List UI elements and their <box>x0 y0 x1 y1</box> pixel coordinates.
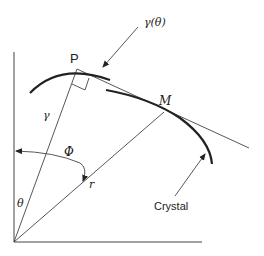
gamma-theta-pointer-arrow <box>103 27 138 67</box>
phi-angle-arc-lower <box>80 163 85 181</box>
label-gamma: γ <box>43 109 50 122</box>
crystal-geometry-diagram: P M γ γ(θ) Φ θ r Crystal <box>0 0 264 256</box>
crystal-pointer-arrow <box>175 154 205 196</box>
gamma-theta-arc <box>30 73 110 93</box>
right-angle-marker <box>72 78 89 90</box>
r-line <box>14 112 164 242</box>
label-theta: θ <box>17 197 24 210</box>
label-crystal: Crystal <box>154 200 188 212</box>
label-r: r <box>89 178 95 191</box>
label-P: P <box>70 51 79 66</box>
label-gamma-theta: γ(θ) <box>144 16 166 29</box>
label-M: M <box>158 94 172 108</box>
label-phi: Φ <box>64 145 74 159</box>
